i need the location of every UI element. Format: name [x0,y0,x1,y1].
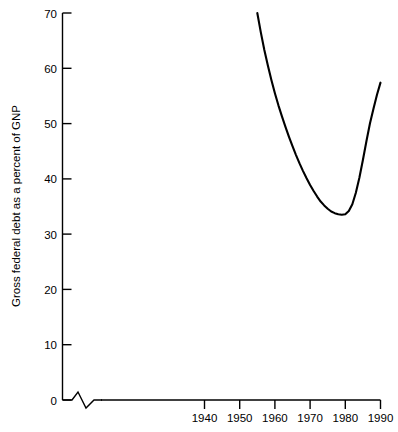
x-tick-label-1950: 1950 [227,412,253,424]
x-tick-label-1940: 1940 [192,412,218,424]
x-tick-label-1960: 1960 [262,412,288,424]
x-tick-label-1970: 1970 [297,412,323,424]
y-tick-label-30: 30 [44,229,57,241]
y-tick-label-70: 70 [44,8,57,20]
y-tick-label-10: 10 [44,339,57,351]
x-axis-break-zigzag [63,392,103,408]
y-axis-title: Gross federal debt as a percent of GNP [10,105,22,307]
chart-plot-area: 70 60 50 40 30 20 10 0 1940 1950 1960 19… [0,0,398,432]
y-tick-label-0: 0 [51,395,57,407]
data-series-line [257,13,380,215]
y-tick-label-60: 60 [44,63,57,75]
chart-figure: 70 60 50 40 30 20 10 0 1940 1950 1960 19… [0,0,398,432]
y-axis-ticks [63,13,72,400]
x-axis-ticks [205,400,381,409]
x-tick-label-1990: 1990 [368,412,394,424]
y-tick-label-50: 50 [44,118,57,130]
x-tick-label-1980: 1980 [333,412,359,424]
y-tick-label-40: 40 [44,173,57,185]
y-tick-label-20: 20 [44,284,57,296]
